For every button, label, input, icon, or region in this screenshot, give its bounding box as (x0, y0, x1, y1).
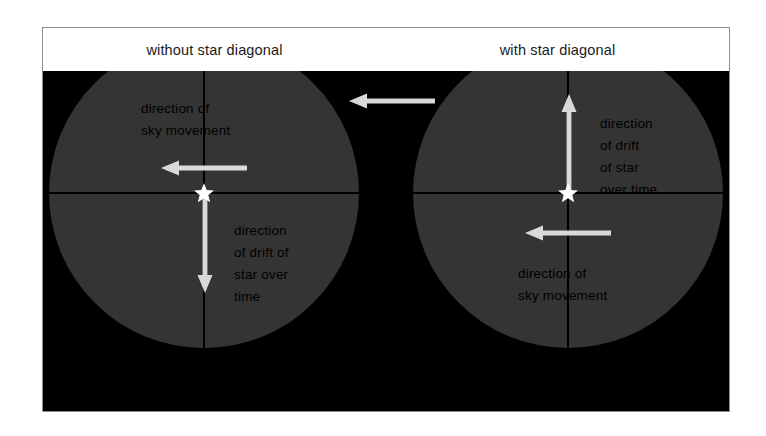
header-strip: without star diagonal with star diagonal (43, 28, 729, 71)
figure-frame: without star diagonal with star diagonal (42, 27, 730, 412)
diagram-panel: direction of sky movement direction of d… (43, 71, 729, 411)
sky-movement-arrow-left (525, 224, 611, 242)
caption-star-drift: direction of drift of star over time (600, 113, 657, 200)
star-drift-arrow-up (560, 94, 578, 191)
sky-movement-arrow-left (161, 159, 247, 177)
eyepiece-view-with-star-diagonal: direction of drift of star over time dir… (413, 71, 723, 348)
header-label-with-star-diagonal: with star diagonal (386, 28, 729, 71)
star-marker (557, 182, 579, 204)
star-marker (193, 182, 215, 204)
header-label-without-star-diagonal: without star diagonal (43, 28, 386, 71)
caption-sky-movement: direction of sky movement (141, 98, 230, 142)
caption-star-drift: direction of drift of star over time (234, 220, 289, 307)
caption-sky-movement: direction of sky movement (518, 263, 607, 307)
star-drift-arrow-down (196, 196, 214, 293)
eyepiece-view-without-star-diagonal: direction of sky movement direction of d… (49, 71, 359, 348)
